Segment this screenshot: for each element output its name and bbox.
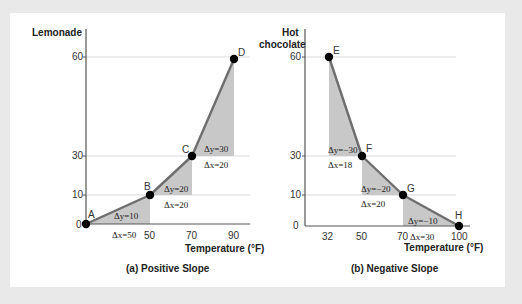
y-axis-title-line1: Hot [282, 27, 299, 38]
delta-y-fg: Δy=−20 [361, 184, 391, 194]
delta-x-fg: Δx=20 [361, 199, 386, 209]
point-b [146, 191, 154, 199]
y-tick-60: 60 [290, 51, 302, 62]
label-b: B [144, 181, 151, 192]
point-g [399, 191, 407, 199]
point-h [455, 222, 463, 230]
delta-x-cd: Δx=20 [204, 160, 229, 170]
x-axis-title: Temperature (°F) [404, 242, 483, 253]
y-tick-10: 10 [290, 189, 302, 200]
x-tick-50: 50 [144, 230, 156, 241]
label-h: H [455, 210, 462, 221]
caption-a: (a) Positive Slope [126, 263, 210, 274]
point-e [325, 53, 333, 61]
chart-positive-slope: A B C D Lemonade 60 30 10 0 50 70 90 Tem… [32, 27, 264, 274]
delta-y-cd: Δy=30 [204, 144, 229, 154]
y-tick-0: 0 [293, 220, 299, 231]
y-tick-30: 30 [72, 150, 84, 161]
y-axis-title: Lemonade [32, 27, 82, 38]
label-g: G [407, 183, 415, 194]
x-tick-70: 70 [397, 231, 409, 242]
x-tick-50: 50 [356, 231, 368, 242]
x-tick-70: 70 [186, 230, 198, 241]
delta-y-ef: Δy=−30 [328, 145, 358, 155]
y-tick-0: 0 [76, 219, 82, 230]
delta-x-bc: Δx=20 [164, 200, 189, 210]
delta-y-bc: Δy=20 [164, 184, 189, 194]
label-f: F [366, 143, 372, 154]
label-c: C [182, 144, 189, 155]
x-tick-100: 100 [451, 231, 468, 242]
label-d: D [238, 47, 245, 58]
label-a: A [88, 209, 95, 220]
point-f [358, 152, 366, 160]
x-tick-32: 32 [322, 231, 334, 242]
slope-figure: A B C D Lemonade 60 30 10 0 50 70 90 Tem… [0, 0, 522, 304]
y-axis-title-line2: chocolate [259, 39, 306, 50]
y-tick-10: 10 [72, 189, 84, 200]
point-d [230, 55, 238, 63]
delta-y-ab: Δy=10 [114, 211, 139, 221]
delta-y-gh: Δy=−10 [408, 216, 438, 226]
y-tick-30: 30 [290, 150, 302, 161]
caption-b: (b) Negative Slope [351, 263, 439, 274]
label-e: E [333, 45, 340, 56]
x-tick-90: 90 [228, 230, 240, 241]
delta-x-ef: Δx=18 [328, 160, 353, 170]
y-tick-60: 60 [72, 51, 84, 62]
x-axis-title: Temperature (°F) [185, 243, 264, 254]
point-a [82, 220, 90, 228]
chart-negative-slope: E F G H Hot chocolate 60 30 10 0 32 50 7… [259, 27, 483, 274]
delta-x-gh: Δx=30 [410, 232, 435, 242]
delta-x-ab: Δx=50 [112, 230, 137, 240]
